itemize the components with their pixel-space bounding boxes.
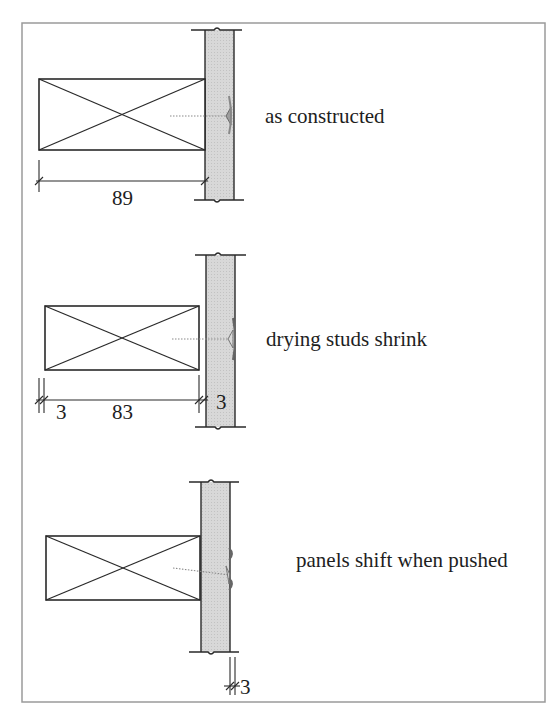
dimension-label-89: 89: [112, 186, 133, 210]
detail-as-constructed: 89 as constructed: [35, 28, 385, 210]
caption-drying-studs-shrink: drying studs shrink: [266, 327, 428, 351]
detail-panels-shift-when-pushed: 3 panels shift when pushed: [46, 480, 508, 699]
dimension-label-83: 83: [112, 400, 133, 424]
caption-as-constructed: as constructed: [265, 104, 385, 128]
stud-section: [39, 79, 205, 150]
caption-panels-shift-when-pushed: panels shift when pushed: [296, 548, 508, 572]
detail-drying-studs-shrink: 3 83 3 drying studs shrink: [35, 253, 428, 429]
diagram-canvas: 89 as constructed: [0, 0, 558, 719]
dimension-label-3-back: 3: [56, 400, 67, 424]
dimension-3-shift: [224, 657, 240, 695]
dimension-label-3-shift: 3: [240, 675, 251, 699]
stud-section: [45, 306, 199, 370]
dimension-label-3-gap: 3: [216, 390, 227, 414]
